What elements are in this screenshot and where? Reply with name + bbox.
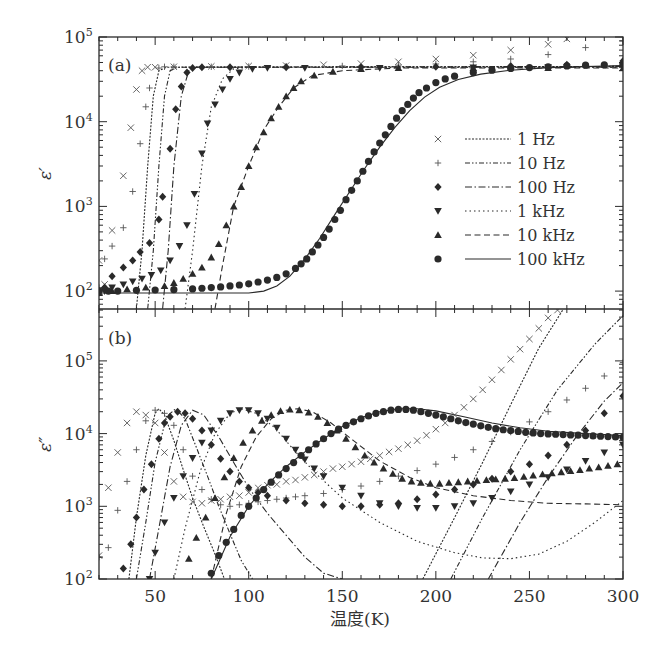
svg-text:150: 150 [326,586,358,606]
svg-text:100 Hz: 100 Hz [517,178,575,197]
x-axis-label: 温度(K) [330,609,390,629]
svg-text:103: 103 [64,195,93,216]
panel-a-label: (a) [108,55,131,75]
svg-text:300: 300 [607,586,639,606]
svg-text:50: 50 [144,586,166,606]
svg-text:104: 104 [64,423,93,444]
svg-text:200: 200 [420,586,452,606]
svg-text:105: 105 [64,350,93,371]
svg-text:100: 100 [232,586,264,606]
y-axis-label-b: ε″ [35,436,55,452]
legend: 1 Hz10 Hz100 Hz1 kHz10 kHz100 kHz [434,130,585,269]
y-axis-label-a: ε′ [35,167,55,180]
panel-b-label: (b) [108,328,132,348]
svg-text:100 kHz: 100 kHz [517,250,585,269]
svg-text:10 kHz: 10 kHz [517,226,575,245]
curve-100Hz [150,410,343,579]
svg-text:250: 250 [513,586,545,606]
axes: 5010015020025030010210310410510210310410… [64,26,639,606]
svg-text:10 Hz: 10 Hz [517,154,565,173]
figure: 5010015020025030010210310410510210310410… [0,0,666,654]
svg-text:104: 104 [64,111,93,132]
legend-item: 100 Hz [434,178,575,197]
svg-text:102: 102 [64,568,93,589]
curve-1Hz [129,409,225,579]
legend-item: 1 kHz [434,202,564,221]
svg-text:105: 105 [64,26,93,47]
legend-item: 100 kHz [434,250,584,269]
svg-text:103: 103 [64,495,93,516]
legend-item: 10 Hz [435,154,565,173]
legend-item: 10 kHz [434,226,574,245]
svg-text:1 kHz: 1 kHz [517,202,564,221]
svg-text:102: 102 [64,280,93,301]
legend-item: 1 Hz [435,130,555,149]
chart-svg: 5010015020025030010210310410510210310410… [0,0,666,654]
svg-text:1 Hz: 1 Hz [517,130,555,149]
